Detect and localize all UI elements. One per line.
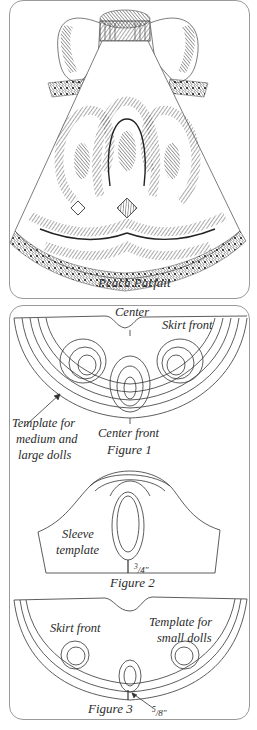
figure-3-template-label-line2: small dolls <box>157 631 212 645</box>
templates-panel: Center Skirt front Template for medium a… <box>9 305 250 720</box>
illustration-caption: Peach Parfait <box>98 276 171 290</box>
figure-3-measurement: 5/8" <box>152 703 167 720</box>
figure-3-caption: Figure 3 <box>88 702 133 716</box>
dress-illustration <box>10 1 251 300</box>
illustration-panel: Peach Parfait <box>9 0 250 299</box>
figure-3-skirt-front-label: Skirt front <box>50 621 101 635</box>
figure-3-template-label-line1: Template for <box>149 615 212 629</box>
figure-3-measurement-denominator: /8" <box>156 708 167 718</box>
figure-3-diagram <box>10 306 251 721</box>
